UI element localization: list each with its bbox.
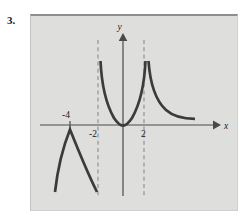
x-axis-arrowhead (213, 121, 221, 130)
curve-right-branch (149, 61, 196, 119)
curve-group (55, 61, 195, 192)
y-axis-arrowhead (119, 33, 128, 41)
graph-figure: y x -4 -2 2 (0, 0, 250, 224)
tick-label-neg2: -2 (89, 129, 97, 139)
x-axis-label: x (223, 121, 229, 131)
y-axis-label: y (117, 22, 123, 32)
asymptote-group (98, 40, 144, 196)
tick-label-pos2: 2 (141, 129, 146, 139)
label-group: y x -4 -2 2 (62, 22, 229, 140)
tick-label-neg4: -4 (62, 110, 70, 120)
